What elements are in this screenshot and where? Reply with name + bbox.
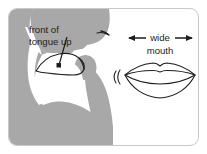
figure-card: front of tongue up wide mouth <box>8 8 199 146</box>
figure-root: front of tongue up wide mouth <box>0 0 207 154</box>
bracket-left-icon <box>118 70 120 84</box>
right-arrow-head <box>186 35 193 41</box>
lips-icon <box>114 63 198 98</box>
articulation-diagram-svg: front of tongue up wide mouth <box>9 9 198 145</box>
tongue-label-line1: front of <box>29 24 59 35</box>
bracket-left-outer-icon <box>114 71 116 83</box>
right-arrow-icon <box>175 35 193 41</box>
mouth-label-line1: wide <box>149 32 170 43</box>
left-arrow-head <box>128 35 135 41</box>
head-profile-icon <box>9 9 113 145</box>
tongue-label-line2: tongue up <box>29 36 72 47</box>
left-arrow-icon <box>128 35 146 41</box>
mouth-label-line2: mouth <box>147 45 174 56</box>
tongue-marker-icon <box>57 63 62 68</box>
